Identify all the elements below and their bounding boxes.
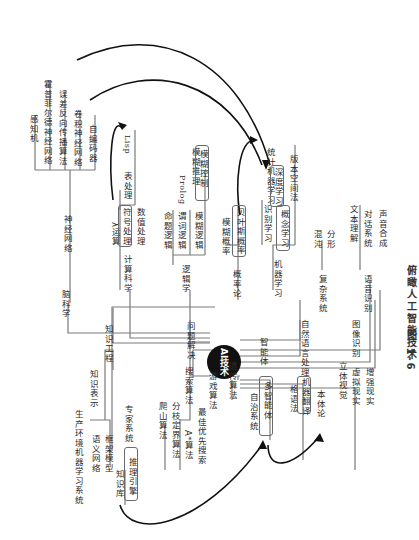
node-a-star: A*算法 [183,430,193,460]
figure-number: 图 1-6 [403,330,418,372]
node-semantic-network: 语义网络 [90,435,100,473]
node-concept-learning: 概念学习 [279,210,289,248]
branch-probability: 概率论 [231,270,241,299]
branch-knowledge-engineering: 知识工程 [103,325,113,363]
node-fuzzy-probability: 模糊概率 [220,218,230,256]
node-fuzzy-control: 模糊控制 [198,150,208,188]
node-branch-and-bound: 分枝定界算法 [170,402,180,459]
branch-problem-solving: 问题解决 [185,322,195,360]
node-hill-climbing: 爬山算法 [157,402,167,440]
branch-logic: 逻辑学 [180,265,190,294]
node-knowledge-base: 知识库 [114,470,124,499]
node-list-processing: 表处理 [122,172,132,201]
node-bayesian-probability: 贝叶斯概率 [235,208,245,256]
branch-image-recognition: 图像识别 [350,320,360,358]
branch-speech-recognition: 语音识别 [362,275,372,313]
node-numeric-processing: 数值处理 [135,208,145,246]
node-ontology: 本体论 [315,390,325,419]
node-machine-translation: 机器翻译 [300,378,310,416]
node-version-space: 版本空间法 [288,155,298,203]
node-predicate-logic: 谓词逻辑 [176,212,186,250]
node-fractal: 分形 [325,230,335,249]
node-production-system: 生产环境机器学习系统 [73,410,83,505]
node-neural-network: 神经网络 [62,215,72,253]
node-multi-agent: 多智能体 [262,382,272,420]
branch-nlp: 自然语言处理 [299,320,309,377]
mind-map-figure: AI技术 脑科学 神经网络 感知机 霍普菲尔德神经网络 误差反向传播算法 卷积神… [0,0,419,540]
node-prolog: Prolog [177,175,187,205]
node-recognition-learning: 识别学习 [262,205,272,243]
node-lisp: Lisp [122,135,132,154]
node-text-understanding: 文本理解 [348,205,358,243]
node-speech-synthesis: 声音合成 [377,210,387,248]
node-backprop: 误差反向传播算法 [57,90,67,166]
node-cnn: 卷积神经网络 [72,110,82,167]
node-search-algorithm: 搜索算法 [183,367,193,405]
node-frame-model: 框架模型 [103,435,113,473]
node-perceptron: 感知机 [28,115,38,144]
node-dialog-system: 对话系统 [362,210,372,248]
branch-machine-learning: 机器学习 [272,260,282,298]
node-best-first-search: 最佳优先搜索 [196,408,206,465]
node-knowledge-representation: 知识表示 [88,370,98,408]
node-game-algorithm: 游戏算法 [207,372,217,410]
node-virtual-reality: 虚拟现实 [350,368,360,406]
node-symbol-processing: 符号处理 [121,208,131,246]
node-hopfield: 霍普菲尔德神经网络 [42,80,52,166]
branch-agent: 智能体 [258,338,268,367]
node-deep-learning: 深度学习 [273,168,283,206]
node-propositional-logic: 命题逻辑 [162,212,172,250]
node-autonomous-system: 自治系统 [248,393,258,431]
node-chaos: 混沌 [312,230,322,249]
connector-lines [0,0,419,540]
branch-computer-science: 计算科学 [122,255,132,293]
node-stereo-vision: 立体视觉 [337,362,347,400]
node-genetic-algorithm: 遗传算法 [227,362,237,400]
node-fuzzy-logic: 模糊逻辑 [193,212,203,250]
branch-brain-science: 脑科学 [60,290,70,319]
node-inference-engine: 推理引擎 [127,458,137,496]
node-expert-system: 专家系统 [123,405,133,443]
node-augmented-reality: 增强现实 [364,368,374,406]
node-autoencoder: 自编码器 [87,125,97,163]
branch-complex-systems: 复杂系统 [317,275,327,313]
